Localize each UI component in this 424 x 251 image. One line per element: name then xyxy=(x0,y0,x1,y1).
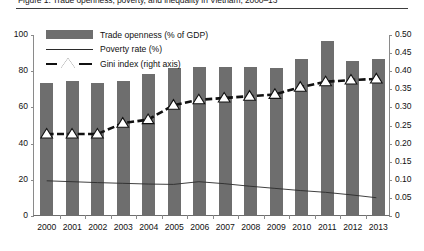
left-axis-tick xyxy=(31,144,34,145)
gini-marker-2004 xyxy=(142,114,154,124)
x-axis-tick xyxy=(187,215,188,219)
x-axis-tick xyxy=(238,215,239,219)
header-divider xyxy=(16,8,408,9)
gini-marker-2010 xyxy=(294,82,306,92)
right-axis-label-0.05: 0.05 xyxy=(395,193,412,202)
legend-label-trade-openness: Trade openness (% of GDP) xyxy=(100,30,208,40)
right-axis-tick xyxy=(389,144,392,145)
right-axis-tick xyxy=(389,126,392,127)
x-axis-label-2002: 2002 xyxy=(88,222,107,232)
left-axis-label-40: 40 xyxy=(19,139,28,148)
left-axis-label-0: 0 xyxy=(23,211,28,220)
x-axis-tick xyxy=(366,215,367,219)
legend-swatch-dashed-triangle-icon xyxy=(46,58,93,69)
right-axis-tick xyxy=(389,53,392,54)
gini-marker-2006 xyxy=(193,94,205,104)
left-axis-label-60: 60 xyxy=(19,102,28,111)
x-axis-tick xyxy=(340,215,341,219)
right-axis-label-0.30: 0.30 xyxy=(395,102,412,111)
right-axis-tick xyxy=(389,162,392,163)
right-axis-tick xyxy=(389,107,392,108)
legend-item-gini-index: Gini index (right axis) xyxy=(46,58,208,69)
left-axis-label-80: 80 xyxy=(19,66,28,75)
x-axis-tick xyxy=(111,215,112,219)
right-axis-tick xyxy=(389,180,392,181)
x-axis-label-2003: 2003 xyxy=(114,222,133,232)
right-axis-tick xyxy=(389,35,392,36)
x-axis-label-2010: 2010 xyxy=(292,222,311,232)
left-axis-tick xyxy=(31,107,34,108)
x-axis-tick xyxy=(60,215,61,219)
right-axis-label-0.25: 0.25 xyxy=(395,121,412,130)
x-axis-tick xyxy=(162,215,163,219)
x-axis-label-2004: 2004 xyxy=(139,222,158,232)
right-axis-label-0.50: 0.50 xyxy=(395,30,412,39)
figure-caption: Figure 1. Trade openness, poverty, and i… xyxy=(18,0,277,5)
x-axis-label-2009: 2009 xyxy=(267,222,286,232)
x-axis-tick xyxy=(289,215,290,219)
left-axis-tick xyxy=(31,216,34,217)
legend-label-gini-index: Gini index (right axis) xyxy=(100,59,181,69)
x-axis-label-2005: 2005 xyxy=(165,222,184,232)
right-axis-label-0: 0 xyxy=(395,211,400,220)
right-axis-tick xyxy=(389,216,392,217)
right-axis-label-0.20: 0.20 xyxy=(395,139,412,148)
legend-item-poverty-rate: Poverty rate (%) xyxy=(46,44,208,55)
gini-marker-2003 xyxy=(117,118,129,128)
x-axis-tick xyxy=(213,215,214,219)
left-axis-label-100: 100 xyxy=(14,30,28,39)
gini-marker-2008 xyxy=(244,91,256,101)
x-axis-label-2001: 2001 xyxy=(63,222,82,232)
left-axis-label-20: 20 xyxy=(19,175,28,184)
right-axis-label-0.10: 0.10 xyxy=(395,175,412,184)
left-axis-tick xyxy=(31,180,34,181)
chart-legend: Trade openness (% of GDP) Poverty rate (… xyxy=(46,29,208,69)
right-axis-tick xyxy=(389,89,392,90)
right-axis-label-0.15: 0.15 xyxy=(395,157,412,166)
x-axis-tick xyxy=(264,215,265,219)
left-axis-tick xyxy=(31,71,34,72)
right-axis-label-0.40: 0.40 xyxy=(395,66,412,75)
x-axis-tick xyxy=(315,215,316,219)
x-axis-label-2007: 2007 xyxy=(216,222,235,232)
legend-swatch-bar-icon xyxy=(46,29,93,40)
left-axis-tick xyxy=(31,35,34,36)
right-axis-label-0.35: 0.35 xyxy=(395,84,412,93)
right-axis-label-0.45: 0.45 xyxy=(395,48,412,57)
right-axis-tick xyxy=(389,198,392,199)
line-gini-index xyxy=(47,79,377,134)
x-axis-label-2008: 2008 xyxy=(241,222,260,232)
x-axis-tick xyxy=(85,215,86,219)
legend-label-poverty-rate: Poverty rate (%) xyxy=(100,44,162,54)
x-axis-label-2011: 2011 xyxy=(318,222,336,232)
x-axis-label-2012: 2012 xyxy=(343,222,362,232)
x-axis-label-2013: 2013 xyxy=(369,222,388,232)
legend-item-trade-openness: Trade openness (% of GDP) xyxy=(46,29,208,40)
line-poverty-rate xyxy=(47,181,377,198)
x-axis-label-2006: 2006 xyxy=(190,222,209,232)
x-axis-tick xyxy=(136,215,137,219)
legend-swatch-line-icon xyxy=(46,44,93,55)
x-axis-label-2000: 2000 xyxy=(37,222,56,232)
right-axis-tick xyxy=(389,71,392,72)
